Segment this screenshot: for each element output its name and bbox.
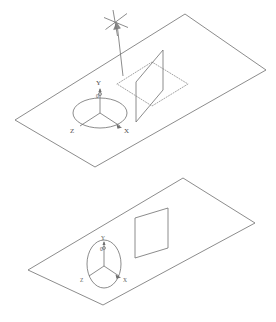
axis-label-z-bottom: Z (80, 277, 84, 283)
axis-label-z-top: Z (70, 127, 74, 135)
origin-label-bottom: 0 (100, 246, 103, 252)
diagram-root: Y X Z 0 (0, 0, 276, 322)
rotation-arrow-top (104, 10, 128, 76)
bottom-figure: Y X Z 0 (28, 178, 255, 305)
coordinate-triad-top: Y X Z 0 (70, 79, 129, 135)
diagram-canvas: Y X Z 0 (0, 0, 276, 322)
axis-label-x-top: X (124, 127, 129, 135)
arrowhead-y-bottom (103, 241, 106, 245)
axis-label-y-top: Y (96, 79, 101, 87)
axis-label-y-bottom: Y (101, 235, 105, 241)
rotation-arrow-shaft (118, 28, 124, 76)
axis-line-x-bottom (104, 266, 119, 276)
arrowhead-y-top (98, 88, 101, 92)
cross-marker-icon (104, 10, 128, 36)
square-patch-bottom (135, 208, 168, 258)
top-figure: Y X Z 0 (15, 10, 266, 167)
ground-plane-parallelogram-top (15, 14, 266, 167)
origin-label-top: 0 (96, 93, 99, 99)
ground-plane-parallelogram-bottom (28, 178, 255, 305)
axis-line-z-bottom (89, 266, 104, 276)
projected-square-outline-top (117, 62, 188, 106)
coordinate-triad-bottom: Y X Z 0 (80, 235, 127, 288)
axis-line-z-top (80, 113, 100, 126)
axis-label-x-bottom: X (123, 277, 127, 283)
tilted-square-patch-top (136, 50, 163, 122)
axis-line-x-top (100, 113, 120, 126)
